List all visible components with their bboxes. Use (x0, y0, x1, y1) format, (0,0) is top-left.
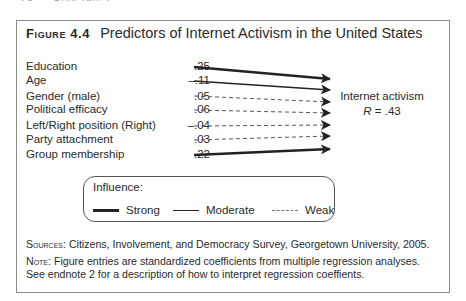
sources-text: Sources: Citizens, Involvement, and Demo… (26, 238, 429, 250)
arrow-weak (194, 125, 330, 126)
sources-body: Citizens, Involvement, and Democracy Sur… (66, 238, 429, 250)
outcome-label: Internet activism (330, 89, 434, 104)
legend-label: Strong (126, 204, 160, 216)
legend-label: Moderate (206, 204, 255, 216)
legend-title: Influence: (93, 181, 143, 193)
outcome-node: Internet activism R = .43 (330, 89, 434, 119)
r-symbol: R (363, 105, 371, 117)
legend-box: Influence: Strong Moderate Weak (83, 176, 335, 222)
sources-prefix: Sources: (26, 238, 66, 250)
arrow-weak (194, 136, 330, 140)
legend-item-moderate: Moderate (173, 204, 255, 216)
arrow-weak (194, 96, 330, 102)
moderate-line-swatch (173, 210, 199, 211)
arrow-strong (194, 67, 330, 79)
note-prefix: Note: (26, 255, 51, 267)
legend-label: Weak (305, 204, 334, 216)
note-text: Note: Figure entries are standardized co… (26, 255, 420, 281)
legend-item-strong: Strong (93, 204, 160, 216)
strong-line-swatch (93, 209, 119, 212)
r-value: = .43 (372, 105, 401, 117)
note-line-2: See endnote 2 for a description of how t… (26, 268, 420, 281)
arrow-strong (194, 149, 330, 155)
legend-item-weak: Weak (272, 204, 334, 216)
r-squared-value: R = .43 (330, 104, 434, 119)
weak-line-swatch (272, 210, 298, 211)
arrow-moderate (194, 81, 330, 90)
note-line-1: Figure entries are standardized coeffici… (51, 255, 420, 267)
arrow-weak (194, 110, 330, 113)
